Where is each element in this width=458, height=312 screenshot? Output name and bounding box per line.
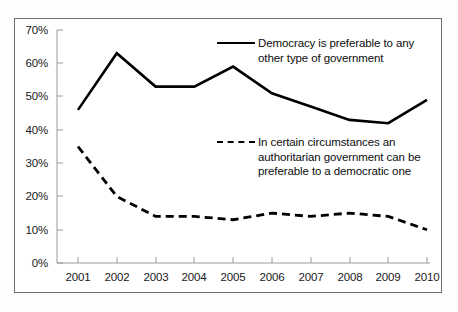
xtick-label-2009: 2009 — [368, 271, 408, 283]
ytick-label-60: 60% — [8, 57, 48, 69]
legend-swatch-democracy — [217, 42, 255, 44]
xtick-label-2003: 2003 — [136, 271, 176, 283]
ytick-label-10: 10% — [8, 224, 48, 236]
ytick-label-20: 20% — [8, 190, 48, 202]
ytick-label-40: 40% — [8, 124, 48, 136]
y-axis — [57, 30, 63, 263]
ytick-label-70: 70% — [8, 24, 48, 36]
chart-figure: 70% 60% 50% 40% 30% 20% 10% 0% 2001 2002… — [0, 0, 458, 312]
ytick-label-30: 30% — [8, 157, 48, 169]
xtick-label-2004: 2004 — [174, 271, 214, 283]
ytick-label-0: 0% — [8, 257, 48, 269]
xtick-label-2008: 2008 — [330, 271, 370, 283]
xtick-label-2007: 2007 — [291, 271, 331, 283]
legend-swatch-authoritarian — [217, 141, 255, 143]
xtick-label-2005: 2005 — [213, 271, 253, 283]
legend-label-democracy: Democracy is preferable to any other typ… — [258, 36, 440, 65]
xtick-label-2002: 2002 — [97, 271, 137, 283]
xtick-label-2001: 2001 — [58, 271, 98, 283]
x-axis — [57, 257, 430, 263]
xtick-label-2006: 2006 — [252, 271, 292, 283]
xtick-label-2010: 2010 — [407, 271, 447, 283]
ytick-label-50: 50% — [8, 90, 48, 102]
legend-label-authoritarian: In certain circumstances an authoritaria… — [258, 135, 446, 179]
